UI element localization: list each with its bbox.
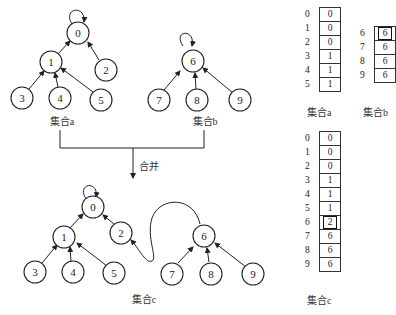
highlighted-root: 6 xyxy=(378,27,392,40)
edge-2-0 xyxy=(88,42,99,60)
index-cell: 9 xyxy=(360,69,375,83)
edge-3-1 xyxy=(29,71,44,89)
table-caption-set-b: 集合b xyxy=(363,104,388,119)
node-3: 3 xyxy=(11,87,33,109)
table-row: 20 xyxy=(305,160,341,174)
index-cell: 0 xyxy=(305,8,320,22)
index-cell: 7 xyxy=(305,230,320,244)
parent-cell: 6 xyxy=(375,55,396,69)
index-cell: 6 xyxy=(360,27,375,41)
index-cell: 3 xyxy=(305,50,320,64)
node-1: 1 xyxy=(40,51,62,73)
svg-text:9: 9 xyxy=(250,268,256,280)
node-9: 9 xyxy=(229,89,251,111)
table-row: 76 xyxy=(360,41,396,55)
index-cell: 2 xyxy=(305,36,320,50)
parent-cell: 0 xyxy=(320,8,341,22)
parent-cell: 6 xyxy=(320,258,341,272)
caption-set-c: 集合c xyxy=(132,293,157,305)
caption-set-b: 集合b xyxy=(193,115,218,127)
svg-text:2: 2 xyxy=(118,227,124,239)
merge-connector: 合并 xyxy=(60,130,204,178)
tree-set-b: 6 7 8 9 集合b xyxy=(148,33,251,127)
parent-cell: 6 xyxy=(375,41,396,55)
index-cell: 9 xyxy=(305,258,320,272)
edge-4-1-c xyxy=(70,247,71,262)
index-cell: 8 xyxy=(305,244,320,258)
node-0: 0 xyxy=(67,22,89,44)
table-row: 96 xyxy=(360,69,396,83)
edge-1-0-c xyxy=(70,214,83,228)
index-cell: 4 xyxy=(305,64,320,78)
edge-8-6-c xyxy=(207,248,209,262)
node-0-c: 0 xyxy=(82,196,104,218)
node-8-c: 8 xyxy=(200,263,222,285)
index-cell: 4 xyxy=(305,188,320,202)
svg-text:8: 8 xyxy=(194,94,200,106)
index-cell: 3 xyxy=(305,174,320,188)
parent-array-set-b: 66 76 86 96 xyxy=(360,26,396,83)
edge-3-1-c xyxy=(42,245,57,263)
table-row: 86 xyxy=(305,244,341,258)
table-row: 41 xyxy=(305,188,341,202)
index-cell: 8 xyxy=(360,55,375,69)
edge-9-6-c xyxy=(215,243,246,267)
table-row: 51 xyxy=(305,202,341,216)
tree-set-c: 0 1 2 3 4 5 6 7 8 9 集合c xyxy=(24,186,264,305)
parent-cell: 1 xyxy=(320,188,341,202)
svg-text:2: 2 xyxy=(103,64,109,76)
index-cell: 7 xyxy=(360,41,375,55)
parent-cell: 0 xyxy=(320,132,341,146)
table-caption-set-a: 集合a xyxy=(307,104,331,119)
svg-text:5: 5 xyxy=(111,267,117,279)
table-row: 41 xyxy=(305,64,341,78)
node-5-c: 5 xyxy=(103,262,125,284)
parent-cell: 1 xyxy=(320,78,341,92)
node-5: 5 xyxy=(90,89,112,111)
node-4: 4 xyxy=(49,87,71,109)
node-6-c: 6 xyxy=(193,225,215,247)
node-2: 2 xyxy=(95,59,117,81)
svg-text:3: 3 xyxy=(32,266,38,278)
index-cell: 2 xyxy=(305,160,320,174)
table-row: 00 xyxy=(305,8,341,22)
highlighted-merged-root: 2 xyxy=(323,216,337,229)
svg-text:6: 6 xyxy=(190,55,196,67)
svg-text:0: 0 xyxy=(90,201,96,213)
table-row: 76 xyxy=(305,230,341,244)
index-cell: 5 xyxy=(305,202,320,216)
svg-text:6: 6 xyxy=(201,230,207,242)
svg-text:8: 8 xyxy=(208,268,214,280)
edge-1-0 xyxy=(58,41,70,54)
edge-7-6-c xyxy=(178,247,193,263)
parent-array-set-c: 00 10 20 31 41 51 62 76 86 96 xyxy=(305,131,341,272)
table-row: 00 xyxy=(305,132,341,146)
parent-cell: 6 xyxy=(375,69,396,83)
node-4-c: 4 xyxy=(62,261,84,283)
parent-cell: 0 xyxy=(320,22,341,36)
node-7-c: 7 xyxy=(161,263,183,285)
table-row: 20 xyxy=(305,36,341,50)
svg-text:7: 7 xyxy=(156,94,162,106)
svg-text:7: 7 xyxy=(169,268,175,280)
node-2-c: 2 xyxy=(110,222,132,244)
svg-text:3: 3 xyxy=(19,92,25,104)
merge-label: 合并 xyxy=(139,160,159,172)
table-row: 96 xyxy=(305,258,341,272)
parent-cell: 1 xyxy=(320,174,341,188)
parent-cell: 6 xyxy=(320,230,341,244)
parent-cell: 0 xyxy=(320,160,341,174)
index-cell: 0 xyxy=(305,132,320,146)
tree-set-a: 0 1 2 3 4 5 集合a xyxy=(11,10,117,127)
index-cell: 5 xyxy=(305,78,320,92)
parent-array-set-a: 00 10 20 31 41 51 xyxy=(305,7,341,92)
edge-2-0-c xyxy=(103,215,114,224)
svg-text:1: 1 xyxy=(48,56,54,68)
self-loop-6 xyxy=(180,33,192,46)
parent-cell: 6 xyxy=(375,27,396,41)
svg-text:0: 0 xyxy=(75,27,81,39)
node-7: 7 xyxy=(148,89,170,111)
parent-cell: 0 xyxy=(320,146,341,160)
table-row: 62 xyxy=(305,216,341,230)
index-cell: 1 xyxy=(305,22,320,36)
